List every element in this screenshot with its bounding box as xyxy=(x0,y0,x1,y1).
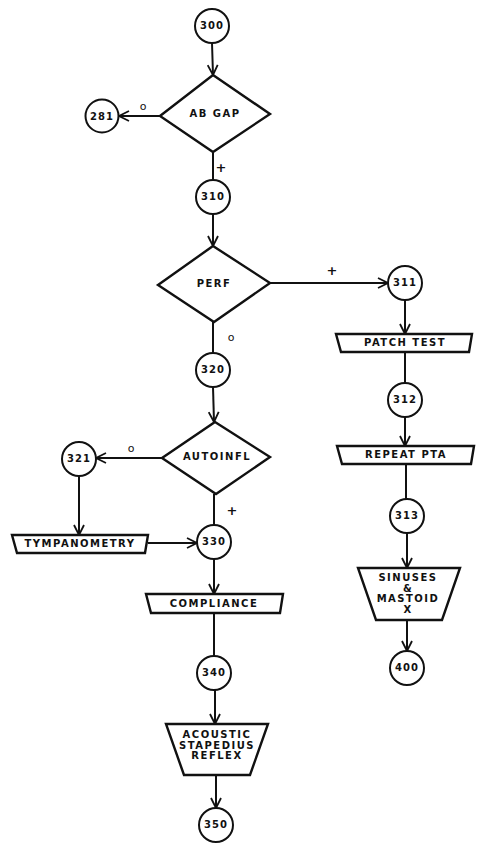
connector-330-label: 330 xyxy=(202,537,226,548)
connector-321-label: 321 xyxy=(67,454,91,465)
connector-320-label: 320 xyxy=(201,365,225,376)
edge-label-autoinfl-positive: + xyxy=(227,504,238,518)
flowchart-canvas xyxy=(0,0,486,849)
process-acoustic-reflex-label: ACOUSTIC STAPEDIUS REFLEX xyxy=(179,730,255,762)
connector-313-label: 313 xyxy=(395,511,419,522)
edge-label-ab-gap-positive: + xyxy=(216,161,227,175)
edge-300-to-abgap xyxy=(212,43,213,75)
connector-350-label: 350 xyxy=(204,820,228,831)
process-tympanometry-label: TYMPANOMETRY xyxy=(24,539,135,550)
connector-340-label: 340 xyxy=(202,668,226,679)
edge-320-to-autoinfl xyxy=(213,387,214,422)
connector-400-label: 400 xyxy=(395,663,419,674)
decision-autoinfl-label: AUTOINFL xyxy=(183,452,251,463)
connector-311-label: 311 xyxy=(393,278,417,289)
edge-label-perf-negative: o xyxy=(228,332,235,344)
decision-ab-gap-label: AB GAP xyxy=(189,109,240,120)
edge-label-autoinfl-negative: o xyxy=(128,443,135,455)
edge-label-ab-gap-negative: o xyxy=(140,101,147,113)
process-patch-test-label: PATCH TEST xyxy=(364,338,446,349)
process-repeat-pta-label: REPEAT PTA xyxy=(365,450,447,461)
decision-perf-label: PERF xyxy=(197,279,232,290)
process-compliance-label: COMPLIANCE xyxy=(170,599,259,610)
connector-281-label: 281 xyxy=(90,112,114,123)
edge-label-perf-positive: + xyxy=(327,264,338,278)
connector-300-label: 300 xyxy=(200,21,224,32)
connector-310-label: 310 xyxy=(201,192,225,203)
connector-312-label: 312 xyxy=(393,395,417,406)
process-sinuses-mastoid-label: SINUSES & MASTOID X xyxy=(377,573,440,615)
